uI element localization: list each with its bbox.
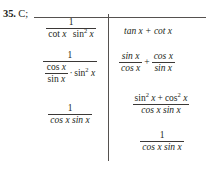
variable-x: x [151, 93, 155, 103]
variable-x: x [183, 93, 187, 103]
variable-x: x [90, 29, 94, 39]
fraction-numerator: 1 [43, 51, 97, 62]
right-expression-3: sin2 x+cos2 x cos x sin x [114, 94, 208, 116]
column-divider-rule [108, 14, 109, 161]
fraction: 1 cos x sin x [48, 104, 91, 126]
plus-operator: + [156, 93, 165, 103]
answer-code: C; [18, 8, 28, 19]
fraction-denominator: cos x sin x [48, 115, 91, 125]
sin-function: sin [74, 68, 85, 78]
cos-function: cos [165, 93, 178, 103]
trig-sum-expression: tan x + cot x [124, 26, 172, 36]
right-expression-1: tan x + cot x [124, 27, 204, 37]
fraction: sin2 x+cos2 x cos x sin x [133, 94, 190, 116]
sin-function: sin [135, 93, 146, 103]
cot-function: cot [48, 29, 60, 39]
fraction-denominator: cos x sin x ·sin2 x [43, 62, 97, 84]
fraction: 1 cos x sin x [140, 131, 183, 153]
sin-function: sin [73, 29, 84, 39]
inner-fraction-numerator: cos x [45, 63, 68, 74]
inner-fraction: cos x sin x [45, 63, 68, 85]
fraction-numerator: 1 [46, 18, 96, 29]
fraction-numerator: 1 [140, 131, 183, 142]
fraction-denominator: cos x [119, 63, 142, 73]
answer-key-page: 35. C; 1 cot x sin2 x 1 cos x [0, 0, 209, 169]
fraction-term-2: cos x sin x [152, 52, 175, 74]
left-expression-1: 1 cot x sin2 x [36, 18, 106, 40]
plus-operator: + [142, 57, 151, 67]
problem-label: 35. C; [3, 8, 28, 19]
fraction-numerator: sin2 x+cos2 x [133, 94, 190, 105]
variable-x: x [91, 68, 95, 78]
exponent-2: 2 [178, 91, 181, 98]
fraction-denominator: sin x [152, 63, 175, 73]
right-expression-2: sin x cos x + cos x sin x [119, 52, 205, 74]
exponent-2: 2 [84, 27, 87, 34]
fraction-numerator: 1 [48, 104, 91, 115]
problem-number: 35. [3, 8, 16, 19]
right-expression-4: 1 cos x sin x [124, 131, 200, 153]
left-expression-3: 1 cos x sin x [33, 104, 107, 126]
sin-function: sin [48, 74, 59, 84]
cos-function: cos [47, 62, 60, 72]
fraction: 1 cot x sin2 x [46, 18, 96, 40]
fraction-denominator: cos x sin x [140, 142, 183, 152]
fraction-denominator: cot x sin2 x [46, 29, 96, 39]
complex-fraction: 1 cos x sin x ·sin2 x [43, 51, 97, 85]
fraction-sum-row: sin x cos x + cos x sin x [119, 57, 175, 67]
variable-x: x [62, 62, 66, 72]
fraction-denominator: cos x sin x [133, 105, 190, 115]
left-expression-2: 1 cos x sin x ·sin2 x [31, 51, 109, 85]
fraction-term-1: sin x cos x [119, 52, 142, 74]
fraction-numerator: cos x [152, 52, 175, 63]
inner-fraction-denominator: sin x [45, 74, 68, 84]
variable-x: x [61, 74, 65, 84]
exponent-2: 2 [146, 91, 149, 98]
fraction-numerator: sin x [119, 52, 142, 63]
exponent-2: 2 [85, 66, 88, 73]
variable-x: x [62, 29, 66, 39]
